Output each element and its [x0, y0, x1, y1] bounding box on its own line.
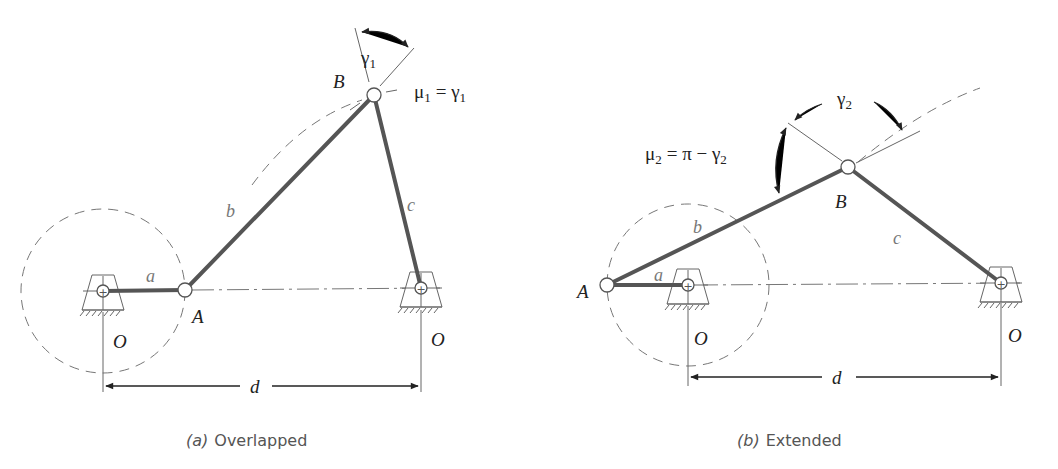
label-a: a: [654, 265, 663, 285]
gamma2-ref-line-2: [856, 131, 920, 163]
fourbar-linkage-figure: + + a b c A B O O d γ1 μ1= γ1 (a)Overlap…: [0, 0, 1058, 469]
gamma1-arc: [362, 31, 408, 47]
svg-text:+: +: [417, 283, 426, 296]
label-c: c: [407, 195, 415, 215]
label-A: A: [190, 306, 204, 327]
label-d: d: [250, 376, 260, 397]
panel-a-overlapped: + + a b c A B O O d γ1 μ1= γ1 (a)Overlap…: [21, 28, 466, 450]
equation-mu2: μ2= π − γ2: [645, 143, 727, 167]
label-B: B: [835, 191, 847, 212]
label-O-right: O: [431, 329, 445, 350]
label-O-left: O: [694, 328, 708, 349]
label-O-right: O: [1008, 325, 1022, 346]
svg-text:+: +: [99, 286, 108, 299]
gamma2-arc: [795, 104, 822, 120]
label-c: c: [893, 228, 901, 248]
caption-b: (b)Extended: [737, 431, 842, 450]
svg-text:+: +: [684, 280, 693, 293]
coupler-arc: [858, 88, 980, 162]
link-b: [607, 167, 848, 285]
coupler-arc: [252, 100, 362, 185]
joint-B: [367, 88, 381, 102]
caption-a: (a)Overlapped: [186, 431, 307, 450]
label-B: B: [333, 71, 345, 92]
joint-A: [600, 278, 614, 292]
gamma2-label: γ2: [836, 88, 852, 112]
joint-A: [178, 283, 192, 297]
gamma1-ref-line-2: [380, 48, 414, 86]
ground-centerline: [696, 283, 1020, 285]
label-a: a: [146, 266, 155, 286]
link-c: [374, 95, 421, 288]
label-A: A: [575, 281, 589, 302]
joint-B: [841, 160, 855, 174]
label-d: d: [832, 367, 842, 388]
gamma1-label: γ1: [360, 47, 376, 71]
link-c: [848, 167, 1001, 283]
equation-mu1: μ1= γ1: [414, 81, 466, 105]
link-a: [103, 290, 185, 291]
panel-b-extended: + + a b c A B O O d γ2 μ2= π − γ2 (b)Ext…: [575, 88, 1022, 450]
label-O-left: O: [113, 331, 127, 352]
svg-text:+: +: [997, 278, 1006, 291]
gamma2-ref-line-1: [788, 123, 842, 161]
link-b: [185, 95, 374, 290]
label-b: b: [226, 201, 235, 221]
label-b: b: [693, 217, 702, 237]
mu2-arc: [776, 128, 786, 193]
